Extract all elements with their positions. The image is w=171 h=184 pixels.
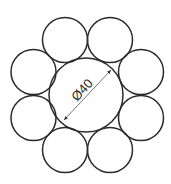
strand-circle-3 <box>119 50 164 95</box>
diameter-label: Ø40 <box>68 76 96 104</box>
strand-circle-5 <box>88 128 133 173</box>
wire-rope-diagram: Ø40 <box>0 0 171 184</box>
